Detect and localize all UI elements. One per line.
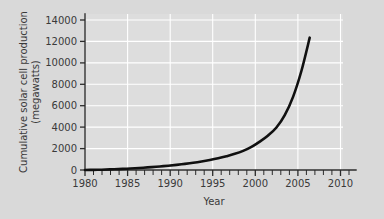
- x-axis-title: Year: [202, 196, 225, 207]
- y-tick-label: 14000: [45, 15, 77, 26]
- x-tick-label: 1990: [157, 178, 182, 189]
- x-tick-label: 1995: [200, 178, 225, 189]
- x-tick-label: 2000: [243, 178, 268, 189]
- y-tick-label: 2000: [52, 143, 77, 154]
- y-tick-label: 8000: [52, 79, 77, 90]
- chart-svg: 0 2000 4000 6000 8000 10000 12000 14000: [0, 0, 384, 219]
- y-axis-title-line1: Cumulative solar cell production: [18, 11, 29, 173]
- x-tick-label: 1980: [72, 178, 97, 189]
- y-tick-label: 0: [71, 165, 77, 176]
- x-tick-label: 1985: [115, 178, 140, 189]
- x-tick-label: 2005: [285, 178, 310, 189]
- chart-figure: 0 2000 4000 6000 8000 10000 12000 14000: [0, 0, 384, 219]
- y-axis-title-line2: (megawatts): [30, 60, 41, 124]
- y-tick-label: 12000: [45, 36, 77, 47]
- x-tick-label: 2010: [328, 178, 353, 189]
- y-tick-label: 4000: [52, 122, 77, 133]
- y-tick-label: 6000: [52, 100, 77, 111]
- plot-area-background: [85, 14, 343, 170]
- y-tick-label: 10000: [45, 57, 77, 68]
